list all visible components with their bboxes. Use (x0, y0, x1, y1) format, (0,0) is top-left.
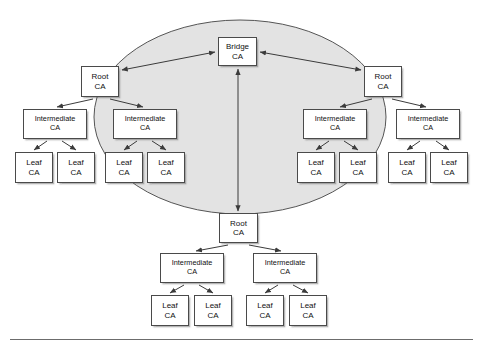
edge-rootbottom-interb2 (249, 245, 281, 251)
node-inter-l2: IntermediateCA (113, 109, 177, 139)
node-label-line1: Leaf (205, 301, 221, 310)
node-label-line1: Leaf (350, 158, 366, 167)
edge-rootright-interr2 (392, 99, 426, 107)
node-leaf-b3: LeafCA (246, 295, 284, 326)
node-label-line2: CA (207, 311, 218, 320)
node-inter-b2: IntermediateCA (253, 253, 317, 283)
node-label-line2: CA (330, 124, 340, 133)
node-label-line2: CA (423, 124, 433, 133)
node-label-line2: CA (94, 82, 105, 91)
node-label-line2: CA (187, 268, 197, 277)
bottom-horizontal-rule (10, 339, 473, 340)
node-label-line2: CA (140, 124, 150, 133)
node-label-line2: CA (232, 52, 243, 61)
node-root-ca-right: RootCA (364, 66, 402, 97)
node-leaf-b2: LeafCA (194, 295, 232, 326)
node-label-line1: Leaf (399, 158, 415, 167)
node-label-line2: CA (233, 228, 244, 237)
edge-interr2-leafr3 (407, 141, 420, 150)
node-leaf-r4: LeafCA (430, 152, 468, 183)
edge-interb1-leafb2 (199, 285, 213, 293)
node-label-line1: Leaf (308, 158, 324, 167)
node-leaf-r3: LeafCA (388, 152, 426, 183)
node-label-line1: Leaf (116, 158, 132, 167)
node-label-line1: Leaf (300, 301, 316, 310)
node-label-line2: CA (118, 168, 129, 177)
edge-interl1-leafl1 (34, 141, 47, 150)
edge-rootleft-interl1 (57, 99, 93, 107)
node-bridge-ca: BridgeCA (218, 37, 257, 66)
node-label-line1: Root (375, 72, 392, 81)
node-label-line1: Root (230, 219, 247, 228)
node-label-line2: CA (352, 168, 363, 177)
node-root-ca-bottom: RootCA (219, 213, 258, 243)
node-leaf-l1: LeafCA (15, 152, 53, 183)
edge-interb2-leafb3 (265, 285, 278, 293)
node-label-line2: CA (164, 311, 175, 320)
node-label-line2: CA (302, 311, 313, 320)
edge-interb2-leafb4 (293, 285, 308, 293)
node-label-line2: CA (70, 168, 81, 177)
node-root-ca-left: RootCA (81, 66, 119, 97)
edge-interb1-leafb1 (170, 285, 184, 293)
node-label-line1: Leaf (162, 301, 178, 310)
node-label-line1: Bridge (226, 42, 249, 51)
node-inter-l1: IntermediateCA (23, 109, 87, 139)
node-leaf-r1: LeafCA (297, 152, 335, 183)
node-label-line2: CA (377, 82, 388, 91)
node-label-line2: CA (310, 168, 321, 177)
node-leaf-r2: LeafCA (339, 152, 377, 183)
edge-interl1-leafl2 (62, 141, 76, 150)
node-leaf-b1: LeafCA (151, 295, 189, 326)
node-label-line1: Leaf (68, 158, 84, 167)
node-inter-r2: IntermediateCA (396, 109, 460, 139)
node-leaf-l3: LeafCA (105, 152, 143, 183)
node-label-line1: Leaf (257, 301, 273, 310)
edge-interr2-leafr4 (436, 141, 449, 150)
edge-rootbottom-interb1 (196, 245, 228, 251)
node-leaf-l2: LeafCA (57, 152, 95, 183)
node-label-line2: CA (28, 168, 39, 177)
node-label-line2: CA (259, 311, 270, 320)
node-label-line2: CA (50, 124, 60, 133)
node-inter-b1: IntermediateCA (160, 253, 224, 283)
node-label-line2: CA (443, 168, 454, 177)
node-label-line1: Leaf (26, 158, 42, 167)
node-label-line1: Leaf (158, 158, 174, 167)
node-label-line1: Leaf (441, 158, 457, 167)
node-label-line1: Root (92, 72, 109, 81)
figure-canvas: BridgeCARootCARootCARootCAIntermediateCA… (0, 0, 483, 346)
node-label-line2: CA (160, 168, 171, 177)
node-label-line2: CA (280, 268, 290, 277)
node-leaf-b4: LeafCA (289, 295, 327, 326)
node-label-line2: CA (401, 168, 412, 177)
node-inter-r1: IntermediateCA (303, 109, 367, 139)
node-leaf-l4: LeafCA (147, 152, 185, 183)
